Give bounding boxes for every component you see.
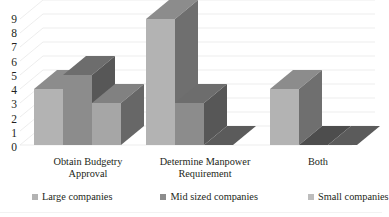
category-label-1-line1: Determine Manpower bbox=[140, 156, 270, 168]
legend-swatch-icon bbox=[32, 194, 38, 200]
y-tick-label: 7 bbox=[3, 42, 17, 53]
y-tick-label: 9 bbox=[3, 14, 17, 25]
y-tick-label: 6 bbox=[3, 57, 17, 68]
chart-legend: Large companies Mid sized companies Smal… bbox=[0, 188, 382, 206]
category-label-2: Both bbox=[268, 156, 368, 168]
y-tick-label: 4 bbox=[3, 85, 17, 96]
category-label-2-line1: Both bbox=[268, 156, 368, 168]
legend-item-mid-sized-companies[interactable]: Mid sized companies bbox=[160, 191, 258, 203]
category-label-0-line1: Obtain Budgetry bbox=[28, 156, 148, 168]
y-tick-label: 5 bbox=[3, 71, 17, 82]
bottom-divider bbox=[0, 212, 382, 213]
legend-swatch-icon bbox=[160, 194, 166, 200]
category-label-1-line2: Requirement bbox=[140, 168, 270, 180]
x-axis-category-labels: Obtain Budgetry Approval Determine Manpo… bbox=[0, 151, 382, 185]
y-tick-label: 8 bbox=[3, 28, 17, 39]
legend-item-label: Mid sized companies bbox=[170, 191, 258, 203]
legend-item-label: Small companies bbox=[318, 191, 389, 203]
y-tick-label: 3 bbox=[3, 99, 17, 110]
category-label-1: Determine Manpower Requirement bbox=[140, 156, 270, 180]
legend-item-small-companies[interactable]: Small companies bbox=[308, 191, 389, 203]
category-label-0-line2: Approval bbox=[28, 168, 148, 180]
legend-item-label: Large companies bbox=[42, 191, 112, 203]
legend-item-large-companies[interactable]: Large companies bbox=[32, 191, 112, 203]
plot-area bbox=[0, 0, 382, 150]
legend-swatch-icon bbox=[308, 194, 314, 200]
y-tick-label: 1 bbox=[3, 128, 17, 139]
y-tick-label: 2 bbox=[3, 114, 17, 125]
plot-svg bbox=[0, 0, 382, 150]
category-label-0: Obtain Budgetry Approval bbox=[28, 156, 148, 180]
y-axis: 9 8 7 6 5 4 3 2 1 0 bbox=[0, 0, 17, 150]
